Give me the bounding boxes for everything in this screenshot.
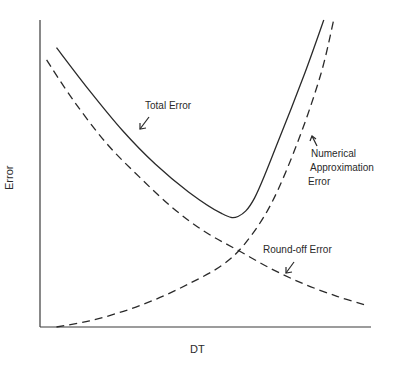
numerical-approximation-error-curve <box>57 20 334 327</box>
numerical-error-label-line3: Error <box>308 175 330 188</box>
round-off-error-label: Round-off Error <box>263 243 332 256</box>
numerical-error-label-line1: Numerical <box>311 147 356 160</box>
total-error-arrow-icon <box>140 117 149 129</box>
round-off-error-arrow-icon <box>286 262 294 273</box>
total-error-label: Total Error <box>145 99 191 112</box>
y-axis-label: Error <box>3 166 15 190</box>
total-error-curve <box>57 20 324 218</box>
x-axis-label: DT <box>190 343 205 355</box>
chart-canvas <box>0 0 395 374</box>
numerical-error-label-line2: Approximation <box>310 161 374 174</box>
numerical-error-arrow-icon <box>310 136 317 146</box>
